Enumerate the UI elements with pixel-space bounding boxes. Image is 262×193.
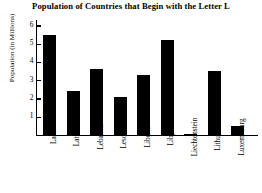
y-tick-label: 6 (30, 20, 34, 30)
chart-title: Population of Countries that Begin with … (0, 1, 262, 11)
x-tick-label-latvia: Latvia (73, 128, 82, 146)
x-tick-label-lesotho: Lesotho (120, 125, 129, 148)
bar-slot-lesotho (109, 20, 133, 135)
bar-slot-libya (156, 20, 180, 135)
bar-laos (43, 35, 56, 135)
bar-chart-figure: Population of Countries that Begin with … (0, 0, 262, 193)
x-label-slot-libya: Libya (156, 137, 180, 193)
x-label-slot-lesotho: Lesotho (109, 137, 133, 193)
y-tick-label: 3 (30, 75, 34, 85)
bar-slot-laos (38, 20, 62, 135)
bar-libya (161, 40, 174, 135)
y-tick-label: 2 (30, 93, 34, 103)
x-label-slot-laos: Laos (38, 137, 62, 193)
x-tick-label-liechtenstein: Liechtenstein (191, 118, 200, 157)
x-label-slot-luxembourg: Luxembourg (226, 137, 250, 193)
x-tick-label-laos: Laos (50, 130, 59, 144)
bar-series (36, 20, 258, 135)
y-tick-label: 1 (30, 111, 34, 121)
bar-slot-lebanon (85, 20, 109, 135)
x-tick-label-lithuania: Lithuania (214, 123, 223, 151)
y-tick-label: 5 (30, 38, 34, 48)
x-label-slot-lebanon: Lebanon (85, 137, 109, 193)
bar-slot-latvia (62, 20, 86, 135)
x-tick-label-liberia: Liberia (144, 127, 153, 148)
x-label-slot-latvia: Latvia (62, 137, 86, 193)
x-tick-label-luxembourg: Luxembourg (238, 119, 247, 156)
y-axis-label: Population (in Millions) (8, 0, 16, 96)
x-tick-label-libya: Libya (167, 129, 176, 146)
x-label-slot-liberia: Liberia (132, 137, 156, 193)
x-tick-label-lebanon: Lebanon (97, 124, 106, 149)
x-axis-tick-labels: LaosLatviaLebanonLesothoLiberiaLibyaLiec… (36, 137, 258, 193)
bar-slot-lithuania (203, 20, 227, 135)
x-label-slot-liechtenstein: Liechtenstein (179, 137, 203, 193)
y-tick-label: 4 (30, 56, 34, 66)
bar-slot-liberia (132, 20, 156, 135)
x-label-slot-lithuania: Lithuania (203, 137, 227, 193)
